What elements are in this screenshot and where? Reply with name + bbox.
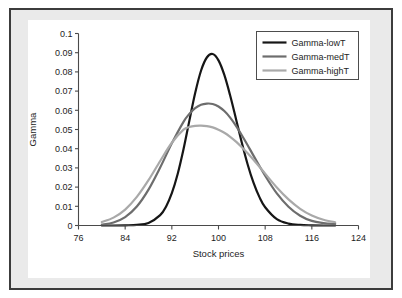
y-tick-label: 0 <box>67 221 72 231</box>
y-tick-label: 0.06 <box>55 106 73 116</box>
x-tick-label: 100 <box>211 233 226 243</box>
y-tick-label: 0.03 <box>55 163 73 173</box>
x-tick-label: 84 <box>120 233 130 243</box>
x-tick-label: 124 <box>351 233 366 243</box>
x-tick-label: 76 <box>73 233 83 243</box>
y-axis-title: Gamma <box>27 112 38 147</box>
chart-figure: 00.010.020.030.040.050.060.070.080.090.1… <box>0 0 402 298</box>
y-tick-label: 0.04 <box>55 144 73 154</box>
y-tick-label: 0.02 <box>55 182 73 192</box>
y-tick-label: 0.08 <box>55 67 73 77</box>
legend-label-2: Gamma-medT <box>292 52 351 62</box>
y-tick-label: 0.09 <box>55 48 73 58</box>
x-axis-title: Stock prices <box>193 248 245 259</box>
plot-overlay: 00.010.020.030.040.050.060.070.080.090.1… <box>0 0 402 298</box>
y-tick-label: 0.05 <box>55 125 73 135</box>
chart-svg: 00.010.020.030.040.050.060.070.080.090.1… <box>0 0 402 298</box>
y-tick-label: 0.1 <box>60 29 73 39</box>
x-tick-label: 108 <box>258 233 273 243</box>
legend-label-3: Gamma-highT <box>292 66 350 76</box>
legend-layer: Gamma-lowTGamma-medTGamma-highT <box>257 32 359 80</box>
x-tick-label: 116 <box>305 233 319 243</box>
legend-label-1: Gamma-lowT <box>292 38 347 48</box>
y-tick-label: 0.01 <box>55 202 73 212</box>
y-tick-label: 0.07 <box>55 86 73 96</box>
x-tick-label: 92 <box>167 233 177 243</box>
series-line-gamma-medt <box>102 104 335 225</box>
